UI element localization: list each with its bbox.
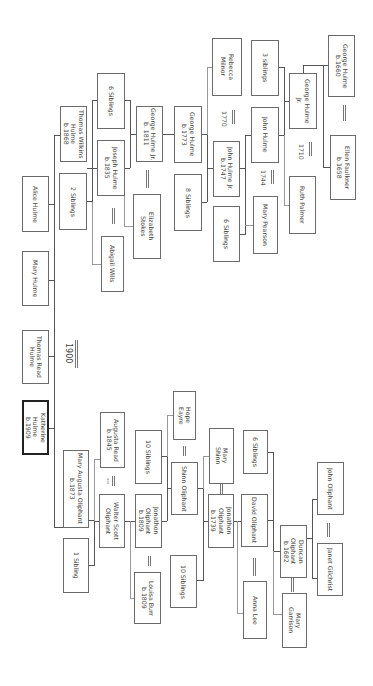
person-name: 6 Siblings	[252, 437, 260, 467]
siblings-10-lower[interactable]: 10 Siblings	[170, 555, 197, 608]
person-mary-pearson[interactable]: Mary Pearson	[253, 196, 278, 254]
person-john-hulme[interactable]: John Hulme	[251, 107, 279, 163]
person-name: Janet Gilchrist	[326, 548, 334, 591]
marriage-marker	[112, 208, 115, 224]
person-name: David Oliphant	[251, 497, 259, 543]
connector	[240, 234, 245, 235]
connector	[94, 459, 95, 521]
person-name: 6 Siblings	[223, 219, 231, 249]
person-george-hulme-1773[interactable]: George Hulme b.1773	[174, 106, 202, 163]
person-name: John Oliphant	[327, 468, 335, 510]
connector	[124, 226, 133, 227]
siblings-2[interactable]: 2 Siblings	[59, 173, 87, 230]
connector	[284, 135, 285, 205]
connector	[92, 202, 93, 264]
marriage-marker	[343, 105, 346, 121]
person-john-oliphant[interactable]: John Oliphant	[317, 462, 344, 515]
person-name: Jonathon Oliphant b.1739	[209, 507, 232, 534]
connector	[203, 456, 204, 489]
marriage-marker	[253, 558, 256, 576]
connector	[323, 65, 324, 167]
person-john-hulme-jr[interactable]: John Hulme Jr. b.1747	[213, 141, 240, 197]
connector	[237, 521, 238, 613]
person-louisa-burr[interactable]: Louisa Burr b.1809	[134, 572, 161, 624]
connector	[49, 204, 54, 205]
person-name: 10 Siblings	[180, 565, 188, 599]
person-ruth-palmer[interactable]: Ruth Palmer	[289, 176, 316, 234]
connector	[303, 65, 328, 66]
person-alice-hulme[interactable]: Alice Hulme	[22, 176, 49, 232]
person-abigail-wills[interactable]: Abigail Wills	[101, 236, 124, 292]
person-katherine-hulme[interactable]: Katherine Hulme b.1909	[22, 400, 49, 455]
connector	[268, 520, 273, 521]
marriage-year-1744: 1744	[260, 170, 267, 186]
siblings-1[interactable]: 1 Sibling	[63, 538, 89, 593]
marriage-marker	[148, 556, 151, 566]
person-hope-eayre[interactable]: Hope Eayre	[173, 391, 196, 440]
person-name: George Hulme Jr. b. 1811	[142, 108, 158, 160]
connector	[273, 551, 274, 615]
connector	[273, 614, 282, 615]
person-name: Ruth Palmer	[299, 186, 307, 224]
connector	[245, 225, 253, 226]
siblings-8[interactable]: 8 Siblings	[174, 174, 202, 231]
marriage-marker	[232, 110, 235, 124]
person-name: Rebecca Milnor	[219, 54, 235, 80]
marriage-year-1770: 1770	[221, 111, 228, 127]
marriage-marker	[112, 476, 115, 486]
connector	[124, 196, 125, 226]
person-mary-augusta-oliphant[interactable]: Mary Augusta Oliphant b.1873	[63, 450, 89, 528]
person-george-hulme-1660[interactable]: George Hulme b.1660	[328, 35, 355, 97]
connector	[207, 67, 208, 135]
person-name: Shinn Oliphant	[181, 466, 189, 512]
marriage-marker	[271, 170, 274, 184]
person-george-hulme-jr[interactable]: George Hulme Jr.	[289, 73, 317, 129]
siblings-10-upper[interactable]: 10 Siblings	[135, 430, 162, 484]
siblings-6-john[interactable]: 6 Siblings	[213, 206, 240, 262]
person-mary-shinn[interactable]: Mary Shinn	[209, 428, 234, 484]
person-augusta-read[interactable]: Augusta Read b.1845	[100, 412, 125, 468]
marriage-marker	[327, 523, 330, 537]
connector	[49, 356, 54, 357]
marriage-marker	[75, 340, 78, 368]
connector	[89, 565, 94, 566]
person-elizabeth-stokes[interactable]: Elizabeth Stokes	[133, 194, 161, 259]
connector	[92, 264, 101, 265]
person-name: George Hulme b.1773	[180, 112, 196, 157]
connector	[125, 168, 130, 169]
siblings-6-david[interactable]: 6 Siblings	[243, 430, 268, 474]
person-name: Katherine Hulme b.1909	[24, 402, 47, 453]
person-joseph-hulme[interactable]: Joseph Hulme b.1835	[97, 140, 125, 196]
person-anna-lee[interactable]: Anna Lee	[243, 581, 267, 639]
person-thomas-read-hulme[interactable]: Thomas Read Hulme	[22, 330, 49, 384]
person-name: Anna Lee	[251, 596, 259, 625]
marriage-marker	[183, 446, 186, 456]
connector	[167, 415, 168, 457]
connector	[197, 580, 203, 581]
connector	[92, 168, 93, 202]
connector	[162, 521, 167, 522]
person-george-hulme-jr-1811[interactable]: George Hulme Jr. b. 1811	[136, 106, 163, 162]
person-walter-scott-oliphant[interactable]: Walter Scott Oliphant	[99, 494, 125, 548]
person-jonathon-oliphant-1739[interactable]: Jonathon Oliphant b.1739	[208, 494, 234, 548]
connector	[202, 202, 207, 203]
person-name: John Hulme	[261, 117, 269, 153]
person-name: Louisa Burr b.1809	[140, 581, 156, 616]
connector	[203, 488, 204, 581]
person-ellen-faulkner[interactable]: Ellen Faulkner b.1658	[330, 135, 356, 200]
person-shinn-oliphant[interactable]: Shinn Oliphant	[171, 462, 198, 515]
siblings-6-hulme[interactable]: 6 Siblings	[97, 73, 125, 129]
person-david-oliphant[interactable]: David Oliphant	[241, 494, 268, 547]
person-mary-garrison[interactable]: Mary Garrison	[282, 593, 307, 648]
person-name: 3 siblings	[261, 53, 269, 82]
person-mary-hulme[interactable]: Mary Hulme	[22, 251, 49, 306]
person-rebecca-milnor[interactable]: Rebecca Milnor	[212, 38, 242, 96]
person-thomas-wilkins-hulme[interactable]: Thomas Wilkins Hulme b.1868	[60, 106, 87, 162]
person-name: 1 Sibling	[72, 552, 80, 579]
person-duncan-oliphant[interactable]: Duncan Oliphant b.1682	[280, 525, 307, 578]
connector	[49, 280, 54, 281]
siblings-3[interactable]: 3 siblings	[251, 40, 279, 96]
person-jonathon-oliphant-1809[interactable]: Jonathon Oliphant b.1809	[135, 494, 162, 548]
person-janet-gilchrist[interactable]: Janet Gilchrist	[317, 543, 343, 596]
person-name: George Hulme b.1660	[334, 44, 350, 89]
